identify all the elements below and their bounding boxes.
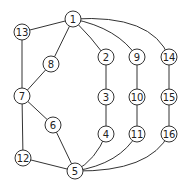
node-9: 9	[129, 49, 145, 65]
node-16: 16	[161, 126, 177, 142]
graph-diagram: 11382914731015641116125	[0, 0, 187, 190]
node-10: 10	[129, 89, 145, 105]
node-label: 10	[131, 92, 144, 103]
node-label: 3	[103, 92, 109, 103]
node-label: 9	[134, 52, 140, 63]
node-5: 5	[67, 163, 83, 179]
node-label: 16	[163, 129, 176, 140]
node-1: 1	[65, 11, 81, 27]
node-label: 4	[103, 129, 109, 140]
node-14: 14	[161, 49, 177, 65]
node-8: 8	[43, 56, 59, 72]
node-label: 8	[48, 59, 54, 70]
node-12: 12	[15, 150, 31, 166]
node-label: 2	[103, 52, 109, 63]
edges-layer	[22, 18, 169, 171]
node-label: 13	[16, 27, 29, 38]
node-label: 1	[70, 14, 76, 25]
node-13: 13	[14, 24, 30, 40]
node-15: 15	[161, 89, 177, 105]
edge-7-12	[22, 96, 23, 158]
node-label: 11	[131, 129, 144, 140]
node-6: 6	[45, 117, 61, 133]
node-4: 4	[98, 126, 114, 142]
node-label: 7	[19, 91, 25, 102]
node-label: 14	[163, 52, 176, 63]
node-7: 7	[14, 88, 30, 104]
node-label: 6	[50, 120, 56, 131]
node-label: 12	[17, 153, 30, 164]
node-label: 15	[163, 92, 176, 103]
node-3: 3	[98, 89, 114, 105]
node-11: 11	[129, 126, 145, 142]
edge-1-14	[73, 18, 169, 57]
node-label: 5	[72, 166, 78, 177]
node-2: 2	[98, 49, 114, 65]
